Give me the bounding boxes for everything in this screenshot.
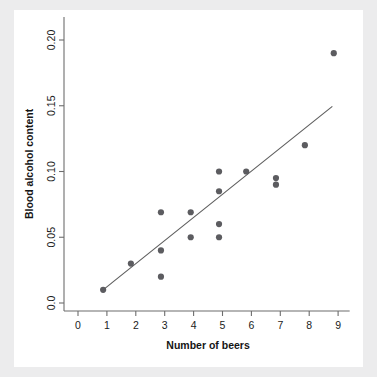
data-point bbox=[302, 142, 308, 148]
x-axis-title: Number of beers bbox=[166, 339, 250, 351]
y-tick-label: 0.0 bbox=[45, 296, 57, 311]
figure-canvas: 0.00.050.100.150.20 0123456789 Blood alc… bbox=[0, 0, 377, 377]
plot-panel: 0.00.050.100.150.20 0123456789 Blood alc… bbox=[14, 10, 363, 367]
x-tick-label: 8 bbox=[306, 319, 312, 331]
x-tick-label: 2 bbox=[133, 319, 139, 331]
y-axis-title: Blood alcohol content bbox=[23, 108, 35, 219]
x-tick-label: 7 bbox=[277, 319, 283, 331]
y-tick-label: 0.15 bbox=[45, 95, 57, 116]
y-axis-ticks bbox=[59, 40, 64, 303]
data-point bbox=[158, 247, 164, 253]
data-point bbox=[188, 209, 194, 215]
x-tick-label: 6 bbox=[248, 319, 254, 331]
data-point bbox=[128, 260, 134, 266]
x-tick-label: 4 bbox=[191, 319, 197, 331]
y-axis-tick-labels: 0.00.050.100.150.20 bbox=[45, 30, 57, 311]
data-point bbox=[216, 221, 222, 227]
data-points bbox=[100, 50, 337, 293]
scatter-chart: 0.00.050.100.150.20 0123456789 Blood alc… bbox=[14, 10, 363, 367]
data-point bbox=[100, 287, 106, 293]
x-tick-label: 0 bbox=[75, 319, 81, 331]
data-point bbox=[158, 209, 164, 215]
data-point bbox=[158, 274, 164, 280]
data-point bbox=[243, 168, 249, 174]
x-tick-label: 1 bbox=[104, 319, 110, 331]
y-tick-label: 0.20 bbox=[45, 30, 57, 51]
x-tick-label: 3 bbox=[162, 319, 168, 331]
x-tick-label: 5 bbox=[220, 319, 226, 331]
y-tick-label: 0.05 bbox=[45, 227, 57, 248]
data-point bbox=[216, 234, 222, 240]
data-point bbox=[216, 188, 222, 194]
x-axis-tick-labels: 0123456789 bbox=[75, 319, 341, 331]
data-point bbox=[273, 175, 279, 181]
data-point bbox=[331, 50, 337, 56]
data-point bbox=[273, 182, 279, 188]
data-point bbox=[188, 234, 194, 240]
x-tick-label: 9 bbox=[335, 319, 341, 331]
y-tick-label: 0.10 bbox=[45, 161, 57, 182]
x-axis-ticks bbox=[78, 311, 338, 316]
data-point bbox=[216, 168, 222, 174]
regression-line bbox=[104, 106, 332, 289]
